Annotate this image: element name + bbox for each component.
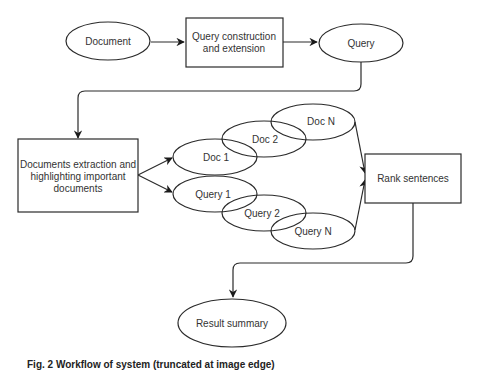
node-rank-sentences-label: Rank sentences: [377, 173, 449, 184]
doc-ellipses: Doc 1 Doc 2 Doc N: [173, 104, 355, 175]
edge-extraction-to-query1: [138, 175, 172, 192]
node-result-summary: Result summary: [178, 299, 286, 347]
node-query: Query: [319, 24, 403, 62]
node-query-label: Query: [347, 38, 374, 49]
node-document-label: Document: [85, 36, 131, 47]
node-query-construction-label-1: Query construction: [192, 31, 276, 42]
node-doc-1-label: Doc 1: [203, 152, 230, 163]
edge-docn-to-rank: [355, 122, 365, 173]
node-result-summary-label: Result summary: [196, 318, 268, 329]
node-doc-n-label: Doc N: [307, 116, 335, 127]
node-rank-sentences: Rank sentences: [365, 154, 461, 203]
node-query-construction-label-2: and extension: [203, 43, 265, 54]
node-documents-extraction: Documents extraction and highlighting im…: [18, 139, 138, 212]
node-query-construction: Query construction and extension: [186, 18, 283, 67]
edge-extraction-to-doc1: [138, 158, 172, 175]
edge-queryn-to-rank: [355, 180, 365, 230]
node-documents-extraction-label-3: documents: [54, 183, 103, 194]
node-query-2-label: Query 2: [244, 208, 280, 219]
query-ellipses: Query 1 Query 2 Query N: [173, 176, 355, 249]
node-query-1-label: Query 1: [195, 189, 231, 200]
node-query-n-label: Query N: [294, 226, 331, 237]
node-document: Document: [66, 22, 150, 60]
node-documents-extraction-label-1: Documents extraction and: [20, 159, 136, 170]
node-doc-2-label: Doc 2: [252, 134, 279, 145]
figure-caption: Fig. 2 Workflow of system (truncated at …: [27, 359, 275, 370]
node-documents-extraction-label-2: highlighting important: [30, 171, 125, 182]
